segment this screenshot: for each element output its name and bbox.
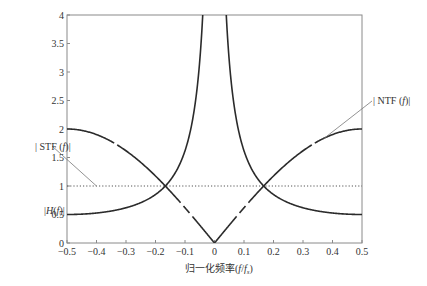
x-tick-label: 0.2	[267, 246, 280, 257]
ntf-curve-segment	[215, 216, 237, 243]
x-tick-label: 0.4	[326, 246, 339, 257]
y-tick-label: 4	[59, 10, 64, 21]
annotation-leaders	[52, 101, 372, 186]
x-tick-label: −0.2	[146, 246, 164, 257]
x-tick-label: −0.3	[117, 246, 135, 257]
y-tick-label: 2.5	[52, 95, 65, 106]
h-curve	[67, 0, 362, 215]
h-curve-right	[218, 0, 362, 215]
x-tick-label: −0.1	[176, 246, 194, 257]
plot-border	[67, 15, 362, 243]
series-layer	[67, 0, 362, 243]
x-tick-label: 0	[212, 246, 217, 257]
x-tick-label: −0.4	[87, 246, 105, 257]
ntf-curve-segment	[248, 145, 311, 203]
plot-frame	[67, 15, 362, 243]
h-label: |H(f)|	[44, 205, 65, 217]
stf-label: | STF (f)|	[35, 141, 71, 153]
ntf-curve-segment	[192, 216, 214, 243]
ntf-curve-segment	[117, 145, 180, 203]
y-tick-label: 1.5	[52, 152, 65, 163]
y-tick-label: 1	[59, 181, 64, 192]
chart: −0.5−0.4−0.3−0.2−0.100.10.20.30.40.5 00.…	[0, 0, 427, 286]
y-tick-label: 3.5	[52, 38, 65, 49]
h-curve-left	[67, 0, 211, 215]
ntf-curve-segment	[67, 129, 114, 143]
ntf-curve-segment	[240, 206, 246, 213]
y-tick-label: 0	[59, 238, 64, 249]
y-tick-label: 2	[59, 124, 64, 135]
ntf-label: | NTF (f)|	[373, 95, 410, 107]
x-tick-label: 0.5	[356, 246, 369, 257]
x-tick-label: 0.3	[297, 246, 310, 257]
ntf-curve-segment	[315, 129, 362, 143]
x-tick-label: 0.1	[238, 246, 251, 257]
x-axis-label: 归一化频率(f/fs)	[185, 262, 253, 276]
ntf-leader-line	[324, 101, 372, 139]
y-tick-label: 3	[59, 67, 64, 78]
ntf-curve-segment	[184, 206, 190, 213]
